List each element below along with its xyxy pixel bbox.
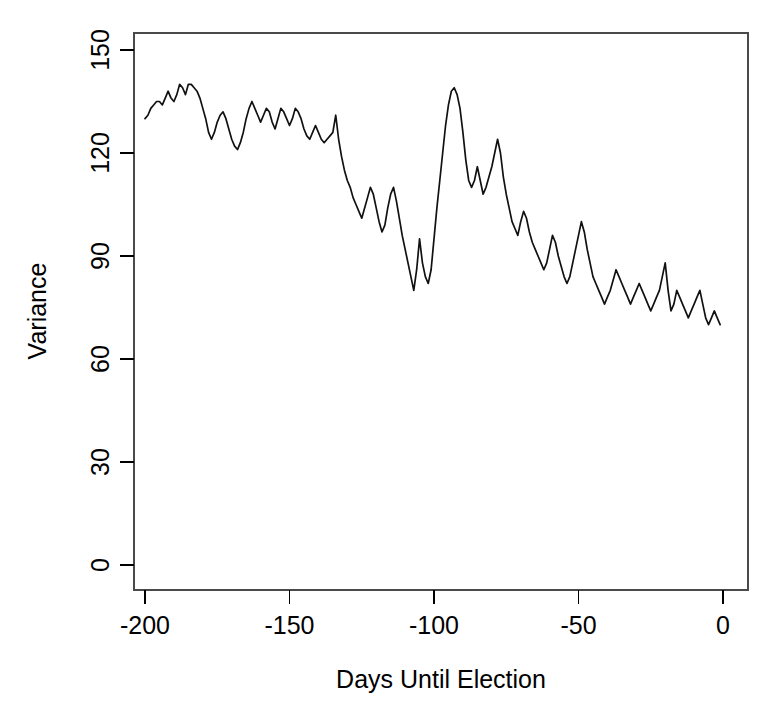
y-tick-label: 90	[86, 242, 114, 270]
chart-background	[0, 0, 781, 718]
x-tick-label: -100	[409, 611, 459, 639]
x-tick-label: -200	[120, 611, 170, 639]
y-axis-title: Variance	[23, 263, 51, 360]
x-tick-label: 0	[716, 611, 730, 639]
x-tick-label: -150	[264, 611, 314, 639]
chart-figure: 0306090120150 -200-150-100-500 Variance …	[0, 0, 781, 718]
y-tick-label: 120	[86, 132, 114, 174]
y-tick-label: 60	[86, 345, 114, 373]
x-axis-title: Days Until Election	[336, 665, 546, 693]
x-tick-label: -50	[560, 611, 596, 639]
y-tick-label: 30	[86, 448, 114, 476]
y-tick-label: 150	[86, 29, 114, 71]
variance-line-chart: 0306090120150 -200-150-100-500 Variance …	[0, 0, 781, 718]
y-tick-label: 0	[86, 558, 114, 572]
